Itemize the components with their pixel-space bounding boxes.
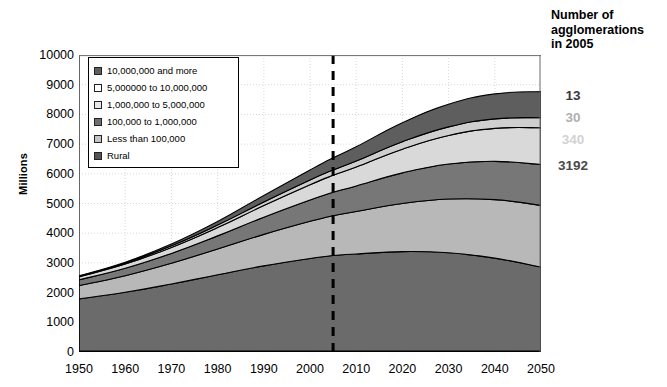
legend-item-label: 5,000000 to 10,000,000 — [107, 83, 207, 93]
legend-item-label: 1,000,000 to 5,000,000 — [107, 100, 205, 110]
legend-item: 1,000,000 to 5,000,000 — [94, 96, 232, 113]
x-axis-tick-label: 1950 — [56, 362, 102, 376]
legend-swatch-icon — [94, 152, 102, 160]
side-panel-heading: Number of agglomerations in 2005 — [551, 8, 667, 52]
legend-item-label: 10,000,000 and more — [107, 66, 197, 76]
legend-swatch-icon — [94, 84, 102, 92]
legend-item-label: Rural — [107, 151, 130, 161]
legend-item: 100,000 to 1,000,000 — [94, 113, 232, 130]
y-axis-tick-labels: 1000090008000700060005000400030002000100… — [26, 0, 74, 387]
x-axis-tick-labels: 1950196019701980199020002010202020302040… — [0, 362, 667, 382]
agglomeration-count: 13 — [551, 88, 595, 103]
y-axis-tick-label: 9000 — [28, 79, 74, 91]
x-axis-tick-label: 2000 — [287, 362, 333, 376]
legend-item: 5,000000 to 10,000,000 — [94, 79, 232, 96]
x-axis-tick-label: 1970 — [148, 362, 194, 376]
y-axis-tick-label: 3000 — [28, 257, 74, 269]
legend-item-label: 100,000 to 1,000,000 — [107, 117, 197, 127]
legend-swatch-icon — [94, 118, 102, 126]
y-axis-tick-label: 5000 — [28, 198, 74, 210]
x-axis-tick-label: 2050 — [518, 362, 564, 376]
chart-legend: 10,000,000 and more5,000000 to 10,000,00… — [88, 57, 239, 168]
legend-item-label: Less than 100,000 — [107, 134, 185, 144]
y-axis-tick-label: 1000 — [28, 316, 74, 328]
agglomeration-count: 3192 — [551, 158, 595, 173]
side-panel-heading-line2: agglomerations — [551, 23, 667, 38]
legend-swatch-icon — [94, 135, 102, 143]
chart-figure: Millions 1000090008000700060005000400030… — [0, 0, 667, 387]
x-axis-tick-label: 1990 — [241, 362, 287, 376]
y-axis-tick-label: 0 — [28, 346, 74, 358]
x-axis-tick-label: 2040 — [472, 362, 518, 376]
side-panel-heading-line1: Number of — [551, 8, 667, 23]
y-axis-tick-label: 6000 — [28, 168, 74, 180]
legend-item: Less than 100,000 — [94, 130, 232, 147]
legend-item: Rural — [94, 147, 232, 164]
legend-item: 10,000,000 and more — [94, 62, 232, 79]
y-axis-tick-label: 7000 — [28, 138, 74, 150]
legend-swatch-icon — [94, 101, 102, 109]
legend-swatch-icon — [94, 67, 102, 75]
x-axis-tick-label: 2020 — [379, 362, 425, 376]
y-axis-tick-label: 10000 — [28, 49, 74, 61]
y-axis-tick-label: 2000 — [28, 287, 74, 299]
x-axis-tick-label: 2010 — [333, 362, 379, 376]
x-axis-tick-label: 1980 — [195, 362, 241, 376]
agglomeration-count: 340 — [551, 132, 595, 147]
x-axis-tick-label: 2030 — [426, 362, 472, 376]
agglomeration-count: 30 — [551, 110, 595, 125]
x-axis-tick-label: 1960 — [102, 362, 148, 376]
side-panel-heading-line3: in 2005 — [551, 37, 667, 52]
y-axis-tick-label: 4000 — [28, 227, 74, 239]
y-axis-tick-label: 8000 — [28, 108, 74, 120]
